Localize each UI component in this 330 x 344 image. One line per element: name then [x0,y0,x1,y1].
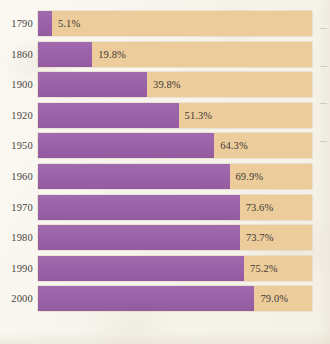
bar-segment-filled [38,195,240,220]
row-year-label: 1990 [0,256,33,281]
row-year-label: 1960 [0,164,33,189]
bar-segment-filled [38,72,147,97]
chart-row: 197073.6% [0,195,330,220]
bar-value-label: 39.8% [153,72,181,97]
row-year-label: 1920 [0,103,33,128]
chart-row: 200079.0% [0,286,330,311]
chart-row: 196069.9% [0,164,330,189]
row-year-label: 1790 [0,11,33,36]
bar-value-label: 79.0% [260,286,288,311]
bar-track-remainder [38,103,312,128]
bar-chart: 17905.1%186019.8%190039.8%192051.3%19506… [0,0,330,344]
row-year-label: 1900 [0,72,33,97]
chart-row: 190039.8% [0,72,330,97]
chart-row: 199075.2% [0,256,330,281]
row-year-label: 1860 [0,42,33,67]
bar-value-label: 75.2% [250,256,278,281]
chart-row: 198073.7% [0,225,330,250]
bar-segment-filled [38,225,240,250]
bar-value-label: 73.6% [246,195,274,220]
row-year-label: 1950 [0,133,33,158]
chart-row: 186019.8% [0,42,330,67]
bar-value-label: 51.3% [185,103,213,128]
bar-segment-filled [38,42,92,67]
bar-value-label: 5.1% [58,11,80,36]
chart-row: 195064.3% [0,133,330,158]
bar-track-remainder [38,133,312,158]
bar-value-label: 19.8% [98,42,126,67]
bar-value-label: 73.7% [246,225,274,250]
bar-track-remainder [38,164,312,189]
row-year-label: 2000 [0,286,33,311]
bar-segment-filled [38,286,254,311]
chart-row: 192051.3% [0,103,330,128]
bar-segment-filled [38,256,244,281]
bar-segment-filled [38,133,214,158]
bar-value-label: 64.3% [220,133,248,158]
bar-segment-filled [38,11,52,36]
row-year-label: 1980 [0,225,33,250]
chart-row: 17905.1% [0,11,330,36]
bar-value-label: 69.9% [236,164,264,189]
bar-segment-filled [38,164,230,189]
bar-segment-filled [38,103,179,128]
row-year-label: 1970 [0,195,33,220]
bar-track-remainder [38,42,312,67]
